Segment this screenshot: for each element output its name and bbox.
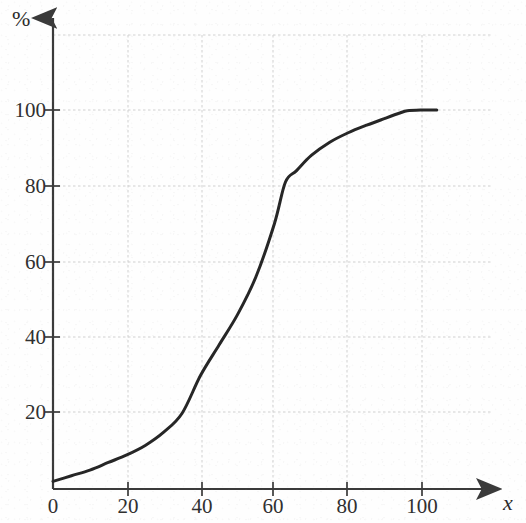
chart-plot-area xyxy=(0,0,526,523)
x-axis-label: x xyxy=(503,490,513,516)
y-tick-label-80: 80 xyxy=(0,174,46,199)
y-tick-label-20: 20 xyxy=(0,400,46,425)
x-tick-label-60: 60 xyxy=(254,494,292,519)
x-tick-label-80: 80 xyxy=(328,494,366,519)
grid-lines xyxy=(53,35,492,489)
x-tick-label-20: 20 xyxy=(109,494,147,519)
axis-lines xyxy=(53,18,498,489)
x-tick-label-0: 0 xyxy=(34,494,72,519)
y-tick-label-40: 40 xyxy=(0,325,46,350)
y-tick-label-60: 60 xyxy=(0,250,46,275)
y-tick-label-100: 100 xyxy=(0,98,46,123)
chart-figure: % x 100 80 60 40 20 0 20 40 60 80 100 xyxy=(0,0,526,523)
x-tick-label-40: 40 xyxy=(183,494,221,519)
x-tick-label-100: 100 xyxy=(398,494,446,519)
y-axis-label: % xyxy=(12,6,31,32)
data-series-line xyxy=(53,110,437,481)
